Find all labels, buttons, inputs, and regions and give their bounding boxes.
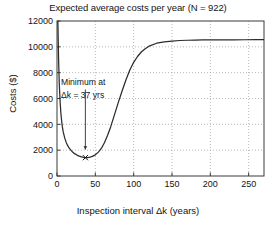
annotation-line-2: Δk = 37 yrs (61, 90, 104, 100)
x-tick-label: 0 (54, 179, 59, 189)
annotation-arrowhead (84, 146, 88, 149)
x-axis-ticks: 050100150200250 (54, 173, 256, 190)
y-tick-label: 8000 (33, 68, 53, 78)
y-tick-label: 0 (48, 171, 53, 181)
y-tick-label: 6000 (33, 94, 53, 104)
x-tick-label: 50 (90, 179, 100, 189)
chart-figure: Expected average costs per year (N = 922… (0, 0, 276, 225)
annotation-line-1: Minimum at (61, 77, 106, 87)
x-tick-label: 100 (126, 179, 141, 189)
x-tick-label: 250 (241, 179, 256, 189)
x-tick-label: 200 (203, 179, 218, 189)
y-tick-label: 4000 (33, 120, 53, 130)
y-tick-label: 10000 (28, 42, 53, 52)
plot-area: 020004000600080001000012000 050100150200… (0, 0, 276, 225)
minimum-annotation: Minimum atΔk = 37 yrs (61, 77, 106, 160)
y-tick-label: 2000 (33, 145, 53, 155)
y-tick-label: 12000 (28, 16, 53, 26)
y-axis-ticks: 020004000600080001000012000 (28, 16, 61, 181)
x-tick-label: 150 (164, 179, 179, 189)
